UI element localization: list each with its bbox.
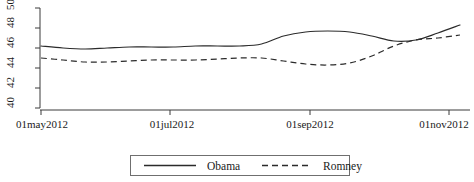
chart-canvas: 40 42 44 46 48 50 01may2012 — [0, 0, 474, 182]
y-tick-label-42: 42 — [4, 77, 16, 88]
x-tick-label-may: 01may2012 — [16, 118, 68, 130]
y-tick-label-44: 44 — [4, 57, 16, 69]
y-tick-label-40: 40 — [4, 97, 16, 109]
y-tick-label-48: 48 — [4, 17, 16, 29]
y-axis-labels: 40 42 44 46 48 50 — [4, 0, 16, 108]
x-tick-label-jul: 01jul2012 — [150, 118, 195, 130]
legend-label-obama: Obama — [207, 160, 240, 172]
y-tick-label-50: 50 — [4, 0, 16, 10]
x-tick-label-sep: 01sep2012 — [286, 118, 334, 130]
y-tick-label-46: 46 — [4, 37, 16, 49]
poll-trend-chart: 40 42 44 46 48 50 01may2012 — [0, 0, 474, 182]
series-line-romney — [41, 35, 460, 65]
x-tick-label-nov: 01nov2012 — [419, 118, 469, 130]
plot-area — [41, 25, 460, 65]
x-axis-labels: 01may2012 01jul2012 01sep2012 01nov2012 — [16, 118, 469, 130]
y-axis — [35, 8, 40, 108]
legend: Obama Romney — [131, 156, 363, 176]
x-axis — [40, 110, 470, 115]
legend-label-romney: Romney — [323, 160, 362, 173]
